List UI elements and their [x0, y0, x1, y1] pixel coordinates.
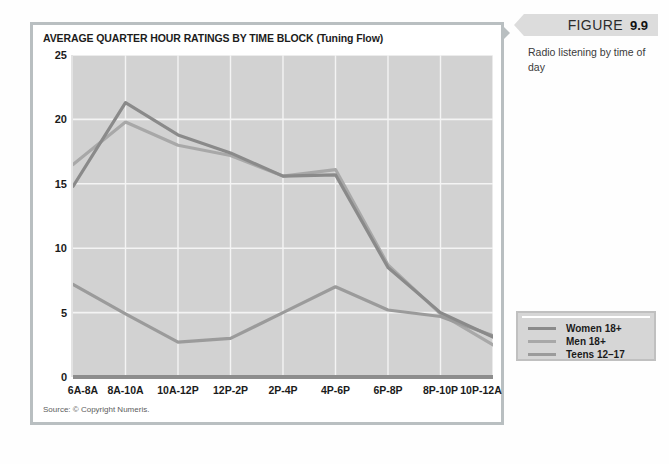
chart-legend-inner: Women 18+Men 18+Teens 12–17: [522, 316, 650, 359]
source-note: Source: © Copyright Numeris.: [43, 405, 149, 414]
y-tick-label: 10: [37, 242, 67, 254]
legend-swatch-icon: [528, 327, 556, 330]
legend-item-0: Women 18+: [522, 322, 650, 335]
x-tick-label: 6A-8A: [68, 384, 98, 396]
x-axis-baseline: [73, 375, 493, 379]
x-tick-label: 12P-2P: [213, 384, 248, 396]
x-tick-label: 10A-12P: [157, 384, 198, 396]
legend-item-2: Teens 12–17: [522, 348, 650, 361]
legend-item-label: Teens 12–17: [566, 349, 625, 360]
x-tick-label: 2P-4P: [268, 384, 297, 396]
figure-tag-word: FIGURE: [568, 17, 623, 33]
legend-item-1: Men 18+: [522, 335, 650, 348]
figure-tag-number: 9.9: [630, 18, 648, 33]
y-axis-spine: [71, 55, 73, 377]
legend-swatch-icon: [528, 353, 556, 356]
legend-item-label: Men 18+: [566, 336, 606, 347]
y-tick-label: 15: [37, 178, 67, 190]
x-tick-label: 8P-10P: [423, 384, 458, 396]
x-axis-tick-labels: 6A-8A8A-10A10A-12P12P-2P2P-4P4P-6P6P-8P8…: [73, 384, 493, 402]
figure-caption: Radio listening by time of day: [528, 45, 660, 75]
plot-area: [73, 55, 493, 377]
legend-item-label: Women 18+: [566, 323, 622, 334]
panel-notch-arrow-icon: [501, 24, 510, 42]
x-tick-label: 6P-8P: [373, 384, 402, 396]
y-axis-tick-labels: 0510152025: [35, 55, 67, 377]
figure-root: AVERAGE QUARTER HOUR RATINGS BY TIME BLO…: [0, 0, 669, 464]
figure-panel: AVERAGE QUARTER HOUR RATINGS BY TIME BLO…: [30, 22, 504, 425]
plot-wrapper: [73, 55, 493, 377]
x-tick-label: 10P-12A: [460, 384, 501, 396]
y-tick-label: 25: [37, 49, 67, 61]
y-tick-label: 0: [37, 371, 67, 383]
legend-swatch-icon: [528, 340, 556, 343]
series-line-2: [73, 284, 493, 342]
series-line-0: [73, 103, 493, 337]
figure-tag: FIGURE 9.9: [524, 14, 658, 36]
x-tick-label: 4P-6P: [321, 384, 350, 396]
x-tick-label: 8A-10A: [107, 384, 143, 396]
chart-title: AVERAGE QUARTER HOUR RATINGS BY TIME BLO…: [43, 32, 383, 44]
y-tick-label: 20: [37, 113, 67, 125]
y-tick-label: 5: [37, 307, 67, 319]
series-lines: [73, 55, 493, 377]
chart-legend: Women 18+Men 18+Teens 12–17: [516, 311, 656, 361]
